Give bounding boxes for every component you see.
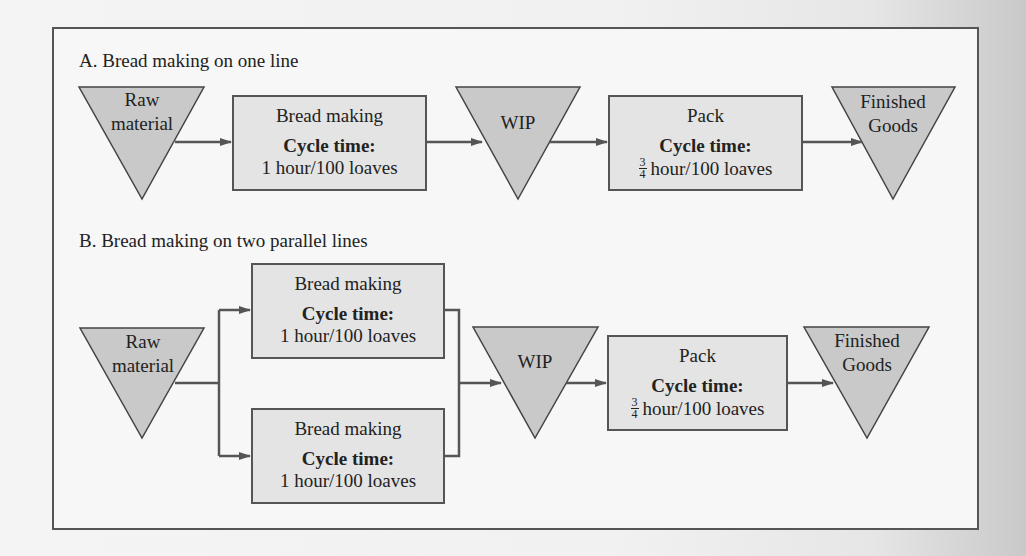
station-name: Bread making [234, 105, 425, 127]
cycle-time-label: Cycle time: [234, 135, 425, 157]
cycle-time-label: Cycle time: [253, 303, 443, 325]
raw-label-line1: Raw [92, 88, 192, 112]
raw-label-line1: Raw [93, 330, 193, 354]
section-b-title: B. Bread making on two parallel lines [79, 230, 368, 252]
fraction: 3 4 [639, 157, 647, 180]
wip-label-b: WIP [495, 350, 575, 374]
pack-station-b: Pack Cycle time: 3 4 hour/100 loaves [607, 335, 788, 431]
raw-material-label-a: Raw material [92, 88, 192, 136]
cycle-time-value: 1 hour/100 loaves [234, 157, 425, 179]
bread-making-station-b2: Bread making Cycle time: 1 hour/100 loav… [251, 408, 445, 504]
station-name: Bread making [253, 418, 443, 440]
raw-label-line2: material [93, 354, 193, 378]
cycle-time-label: Cycle time: [253, 448, 443, 470]
pack-station-a: Pack Cycle time: 3 4 hour/100 loaves [608, 95, 803, 191]
cycle-time-label: Cycle time: [610, 135, 801, 157]
finished-label-line1: Finished [843, 90, 943, 114]
finished-label-line2: Goods [843, 114, 943, 138]
section-a-title: A. Bread making on one line [79, 50, 299, 72]
station-name: Bread making [253, 273, 443, 295]
finished-goods-label-a: Finished Goods [843, 90, 943, 138]
station-name: Pack [610, 105, 801, 127]
finished-label-line1: Finished [817, 329, 917, 353]
fraction-denominator: 4 [632, 409, 638, 420]
raw-label-line2: material [92, 112, 192, 136]
bread-making-station-b1: Bread making Cycle time: 1 hour/100 loav… [251, 263, 445, 359]
station-name: Pack [609, 345, 786, 367]
fraction: 3 4 [631, 397, 639, 420]
cycle-time-label: Cycle time: [609, 375, 786, 397]
cycle-time-value: 3 4 hour/100 loaves [609, 397, 786, 420]
raw-material-label-b: Raw material [93, 330, 193, 378]
flow-diagram-graphics [0, 0, 1026, 556]
cycle-time-value: 1 hour/100 loaves [253, 325, 443, 347]
merge-connector [445, 310, 459, 456]
cycle-time-value: 1 hour/100 loaves [253, 470, 443, 492]
bread-making-station-a: Bread making Cycle time: 1 hour/100 loav… [232, 95, 427, 191]
wip-label-a: WIP [478, 111, 558, 135]
fraction-denominator: 4 [640, 169, 646, 180]
cycle-time-value: 3 4 hour/100 loaves [610, 157, 801, 180]
finished-label-line2: Goods [817, 353, 917, 377]
cycle-time-unit: hour/100 loaves [651, 158, 773, 180]
cycle-time-unit: hour/100 loaves [643, 398, 765, 420]
finished-goods-label-b: Finished Goods [817, 329, 917, 377]
